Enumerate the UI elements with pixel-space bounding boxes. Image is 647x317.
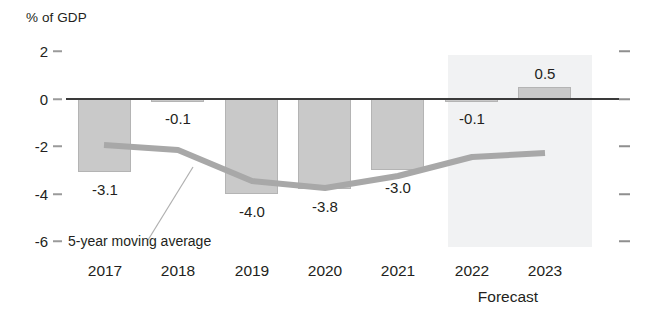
y-tick-mark-right-neg2 [619,145,630,147]
bar-value-2020: -3.8 [312,198,338,215]
y-tick-mark-0 [53,98,62,100]
y-tick-mark-right-neg4 [619,193,630,195]
x-tick-label-2019: 2019 [235,262,269,280]
chart-container: % of GDP 2 0 -2 -4 -6 -3.1 -0.1 -4.0 -3.… [0,0,647,317]
y-tick-label-neg4: -4 [8,186,48,203]
y-tick-label-neg2: -2 [8,138,48,155]
x-tick-label-2018: 2018 [161,262,195,280]
y-tick-mark-right-0 [619,98,630,100]
annotation-leader-line [148,167,193,240]
y-tick-mark-neg2 [53,145,62,147]
y-tick-mark-2 [53,50,62,52]
y-tick-label-0: 0 [8,91,48,108]
bar-value-2017: -3.1 [92,181,118,198]
bar-2017 [78,99,131,172]
moving-average-annotation-label: 5-year moving average [68,233,211,249]
bar-value-2019: -4.0 [239,203,265,220]
y-tick-mark-neg6 [53,240,62,242]
y-tick-mark-right-neg6 [619,240,630,242]
forecast-shaded-region [448,55,592,247]
bar-value-2021: -3.0 [385,179,411,196]
bar-2019 [225,99,278,194]
bar-value-2023: 0.5 [535,65,556,82]
y-tick-mark-neg4 [53,193,62,195]
forecast-caption: Forecast [478,288,538,306]
x-tick-label-2023: 2023 [528,262,562,280]
x-tick-label-2022: 2022 [455,262,489,280]
y-tick-label-neg6: -6 [8,233,48,250]
x-tick-label-2021: 2021 [381,262,415,280]
bar-2021 [371,99,424,170]
x-tick-label-2017: 2017 [88,262,122,280]
y-axis-title: % of GDP [26,10,87,25]
bar-2020 [298,99,351,189]
zero-baseline [66,98,619,100]
x-tick-label-2020: 2020 [308,262,342,280]
bar-value-2018: -0.1 [165,110,191,127]
bar-value-2022: -0.1 [459,110,485,127]
y-tick-label-2: 2 [8,43,48,60]
y-tick-mark-right-2 [619,50,630,52]
